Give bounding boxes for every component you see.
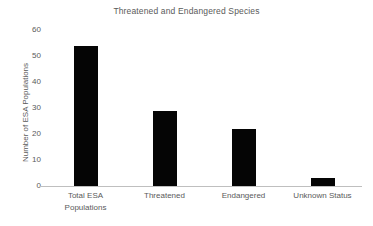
x-tick-label-line: Populations	[46, 202, 125, 214]
x-tick-label-line: Threatened	[125, 190, 204, 202]
chart-title: Threatened and Endangered Species	[0, 6, 373, 16]
y-tick-label: 20	[32, 130, 41, 138]
bar	[232, 129, 256, 186]
bar	[153, 111, 177, 186]
y-tick-label: 50	[32, 52, 41, 60]
x-tick-label: Total ESAPopulations	[46, 190, 125, 213]
x-axis-tick-labels: Total ESAPopulationsThreatenedEndangered…	[46, 190, 362, 224]
x-tick-label-line: Endangered	[204, 190, 283, 202]
plot-area: 0102030405060	[46, 30, 362, 186]
x-tick-label: Endangered	[204, 190, 283, 202]
y-tick-label: 60	[32, 26, 41, 34]
x-tick-label: Threatened	[125, 190, 204, 202]
x-axis-line	[40, 186, 362, 187]
bar	[74, 46, 98, 186]
x-tick-label-line: Unknown Status	[283, 190, 362, 202]
x-tick-label: Unknown Status	[283, 190, 362, 202]
y-axis-title: Number of ESA Populations	[21, 43, 30, 183]
bar-chart-figure: Threatened and Endangered Species Number…	[0, 0, 373, 226]
bar	[311, 178, 335, 186]
x-tick-label-line: Total ESA	[46, 190, 125, 202]
y-tick-label: 30	[32, 104, 41, 112]
y-tick-label: 10	[32, 156, 41, 164]
y-tick-label: 40	[32, 78, 41, 86]
